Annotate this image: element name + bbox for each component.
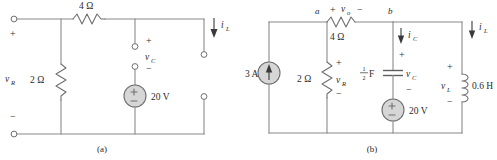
label-b-20v: 20 V	[409, 106, 428, 116]
circuit-figure: + − v R 4 Ω 2 Ω + v C − 20 V i L (a)	[0, 0, 497, 160]
label-a-2ohm: 2 Ω	[30, 75, 44, 85]
label-a-vC: v	[145, 52, 150, 62]
circuit-b-group: 3 A a b + v o − 4 Ω 2 Ω + v R − i C 1 2 …	[245, 4, 493, 154]
label-a-left-minus: −	[10, 111, 16, 122]
caption-b: (b)	[367, 144, 378, 154]
terminal-a-cap-bottom	[132, 64, 138, 70]
terminal-a-bottom-left	[11, 131, 17, 137]
label-b-vo-minus: −	[357, 4, 363, 15]
label-b-node-a: a	[315, 6, 320, 16]
label-a-20v: 20 V	[151, 92, 170, 102]
label-b-cap-numerator: 1	[363, 66, 366, 72]
label-b-4ohm: 4 Ω	[330, 32, 344, 42]
label-b-vL-plus: +	[447, 61, 453, 72]
resistor-a-4ohm	[73, 14, 105, 24]
resistor-b-4ohm	[327, 17, 355, 27]
label-b-vo: v	[341, 4, 346, 14]
label-b-cap-unit: F	[369, 69, 374, 79]
label-a-left-plus: +	[10, 28, 16, 39]
label-b-vC-minus: −	[406, 84, 412, 95]
label-b-cap-denominator: 2	[363, 75, 366, 81]
terminal-a-ind-top	[201, 52, 207, 58]
label-b-vo-plus: +	[330, 4, 336, 15]
circuit-a-group: + − v R 4 Ω 2 Ω + v C − 20 V i L (a)	[5, 1, 230, 154]
inductor-b-coil	[462, 74, 468, 102]
label-b-vL: v	[441, 81, 446, 91]
label-b-vC-plus: +	[399, 49, 405, 60]
voltage-source-b-symbol	[382, 99, 404, 121]
label-b-vR: v	[336, 75, 341, 85]
resistor-a-2ohm	[56, 64, 66, 100]
label-b-2ohm: 2 Ω	[297, 74, 311, 84]
label-a-vC-sub: C	[151, 57, 156, 64]
label-b-iL-sub: L	[483, 27, 488, 34]
voltage-source-a-symbol	[124, 85, 146, 107]
label-a-vC-plus: +	[146, 35, 152, 46]
label-b-vo-sub: o	[347, 9, 351, 16]
terminal-a-cap-top	[132, 44, 138, 50]
label-b-iL: i	[479, 22, 482, 32]
label-b-vR-minus: −	[336, 88, 342, 99]
label-b-iC: i	[408, 30, 411, 40]
label-b-06h: 0.6 H	[472, 81, 493, 91]
label-b-vL-sub: L	[446, 86, 451, 93]
label-b-node-b: b	[388, 6, 393, 16]
current-arrow-b-iL-head	[469, 31, 475, 40]
label-b-vC: v	[406, 69, 411, 79]
label-a-iL-sub: L	[225, 25, 230, 32]
label-a-vR: v	[5, 74, 10, 84]
terminal-a-ind-bottom	[201, 94, 207, 100]
label-b-iC-sub: C	[413, 35, 418, 42]
label-a-iL: i	[221, 20, 224, 30]
circuit-canvas: + − v R 4 Ω 2 Ω + v C − 20 V i L (a)	[0, 0, 497, 160]
terminal-a-top-left	[11, 16, 17, 22]
label-a-4ohm: 4 Ω	[79, 1, 93, 11]
current-arrow-b-iC-head	[398, 36, 404, 45]
label-b-vC-sub: C	[412, 74, 417, 81]
label-b-vR-plus: +	[336, 57, 342, 68]
label-a-vR-sub: R	[10, 79, 15, 86]
resistor-b-2ohm	[322, 62, 332, 98]
label-a-vC-minus: −	[146, 63, 152, 74]
label-b-vL-minus: −	[447, 96, 453, 107]
caption-a: (a)	[97, 144, 107, 154]
label-b-3a: 3 A	[245, 69, 259, 79]
label-b-vR-sub: R	[341, 80, 346, 87]
current-arrow-a-iL-head	[211, 29, 218, 38]
